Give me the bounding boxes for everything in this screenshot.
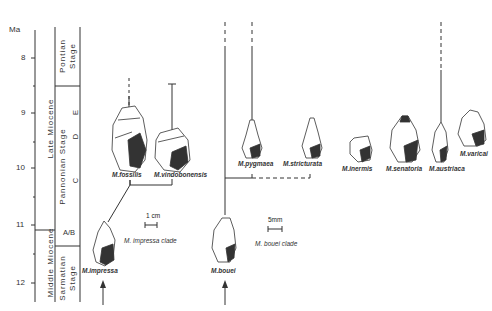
clade-label-bouei: M. bouei clade xyxy=(255,240,297,247)
stage-sarmatian: Sarmatian Stage xyxy=(58,248,78,308)
species-label-vindobonensis: M.vindobonensis xyxy=(154,171,207,178)
shell-austriaca xyxy=(432,122,448,162)
tick-label: 12 xyxy=(16,278,25,287)
species-label-austriaca: M.austriaca xyxy=(429,165,465,172)
scale-bar-label-1cm: 1 cm xyxy=(146,212,160,219)
shell-fossilis xyxy=(112,106,147,172)
stage-pontian: Pontian Stage xyxy=(58,26,78,86)
species-label-pygmaea: M.pygmaea xyxy=(238,160,273,167)
species-label-varicai: M.varicai xyxy=(460,150,488,157)
shell-stricturata xyxy=(302,118,322,158)
epoch-middle-miocene: Middle Miocene xyxy=(46,218,55,308)
species-label-inermis: M.inermis xyxy=(342,165,372,172)
axis-unit-label: Ma xyxy=(9,25,20,34)
species-label-stricturata: M.stricturata xyxy=(283,160,322,167)
tick-label: 10 xyxy=(16,163,25,172)
stage-pannonian: Pannonian Stage xyxy=(58,122,67,212)
substage-d: D xyxy=(71,134,80,139)
shell-impressa xyxy=(93,221,115,266)
substage-ab: A/B xyxy=(63,228,75,237)
species-label-bouei: M.bouei xyxy=(211,267,236,274)
tick-label: 11 xyxy=(16,220,24,229)
substage-c: C xyxy=(71,178,80,183)
species-label-senatoria: M.senatoria xyxy=(386,165,422,172)
tick-label: 8 xyxy=(21,53,25,62)
species-label-fossilis: M.fossilis xyxy=(112,171,142,178)
shell-varicai xyxy=(458,110,486,146)
shell-senatoria xyxy=(390,116,420,162)
shell-bouei xyxy=(212,218,236,262)
species-label-impressa: M.impressa xyxy=(82,267,118,274)
shell-inermis xyxy=(350,136,372,162)
tick-label: 9 xyxy=(21,108,25,117)
substage-e: E xyxy=(71,110,80,115)
shell-pygmaea xyxy=(242,120,262,158)
epoch-late-miocene: Late Miocene xyxy=(46,74,55,184)
shell-vindobonensis xyxy=(155,128,190,172)
scale-bar-label-5mm: 5mm xyxy=(268,216,282,223)
clade-label-impressa: M. impressa clade xyxy=(124,237,177,244)
